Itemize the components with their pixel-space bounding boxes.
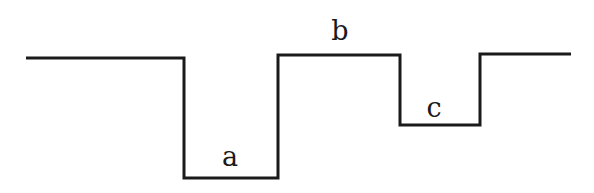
step-profile-line [26,54,571,178]
step-profile-diagram: a b c [0,0,594,193]
label-b: b [331,15,348,46]
label-c: c [426,92,441,123]
label-a: a [222,141,238,172]
